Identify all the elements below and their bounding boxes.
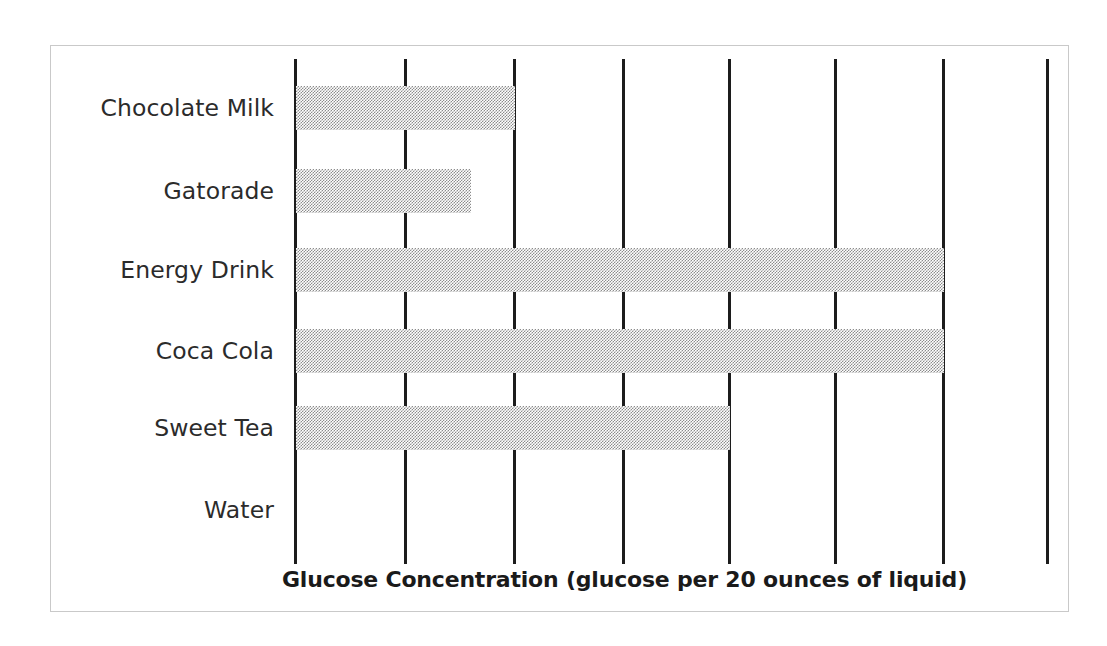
chart-frame: Chocolate Milk Gatorade Energy Drink Coc… <box>50 45 1069 612</box>
bar-energy-drink <box>296 248 944 292</box>
category-label: Gatorade <box>0 169 274 213</box>
category-label: Water <box>0 488 274 532</box>
bar-row: Gatorade <box>51 169 1068 213</box>
bar-row: Chocolate Milk <box>51 86 1068 130</box>
bar-row: Sweet Tea <box>51 406 1068 450</box>
category-label: Chocolate Milk <box>0 86 274 130</box>
bar-row: Coca Cola <box>51 329 1068 373</box>
bar-chocolate-milk <box>296 86 515 130</box>
chart-title-text: Glucose Concentration (glucose per 20 ou… <box>282 567 967 592</box>
chart-title: Glucose Concentration (glucose per 20 ou… <box>51 567 1068 592</box>
bar-coca-cola <box>296 329 944 373</box>
bar-gatorade <box>296 169 471 213</box>
category-label: Coca Cola <box>0 329 274 373</box>
plot-area: Chocolate Milk Gatorade Energy Drink Coc… <box>51 46 1068 611</box>
category-label: Energy Drink <box>0 248 274 292</box>
bar-row: Water <box>51 488 1068 532</box>
bar-row: Energy Drink <box>51 248 1068 292</box>
category-label: Sweet Tea <box>0 406 274 450</box>
bar-sweet-tea <box>296 406 730 450</box>
